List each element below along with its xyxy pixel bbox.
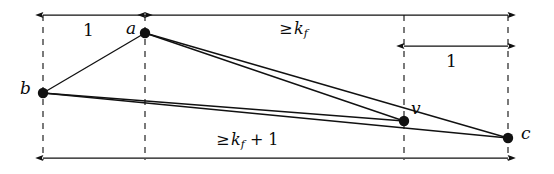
- measure-label-right-unit: 1: [446, 53, 457, 70]
- addend-plus-one: + 1: [250, 130, 279, 149]
- figure-container: a b v c 1 ≥kf 1 ≥kf+ 1: [0, 0, 554, 174]
- subscript-f-bottom: f: [241, 138, 245, 151]
- node-dot-b: [38, 88, 48, 98]
- variable-k-bottom: k: [231, 130, 241, 149]
- measure-label-bottom-kf-plus-one: ≥kf+ 1: [216, 132, 279, 150]
- edge-a-v: [145, 33, 404, 121]
- node-label-a: a: [126, 20, 136, 37]
- edge-b-v: [43, 93, 404, 121]
- variable-k-top: k: [294, 19, 304, 38]
- node-dot-group: [38, 28, 513, 143]
- relation-symbol-gte-top: ≥: [279, 19, 292, 38]
- node-dot-v: [399, 116, 409, 126]
- node-dot-c: [503, 133, 513, 143]
- node-dot-a: [140, 28, 150, 38]
- edge-group: [43, 33, 508, 138]
- node-label-b: b: [20, 80, 31, 97]
- edge-b-a: [43, 33, 145, 93]
- edge-a-c: [145, 33, 508, 138]
- measure-label-top-right-kf: ≥kf: [279, 21, 308, 39]
- node-label-v: v: [411, 100, 421, 117]
- measure-label-top-left-unit: 1: [83, 22, 94, 39]
- relation-symbol-gte-bottom: ≥: [216, 130, 229, 149]
- subscript-f-top: f: [304, 27, 308, 40]
- node-label-c: c: [521, 125, 531, 142]
